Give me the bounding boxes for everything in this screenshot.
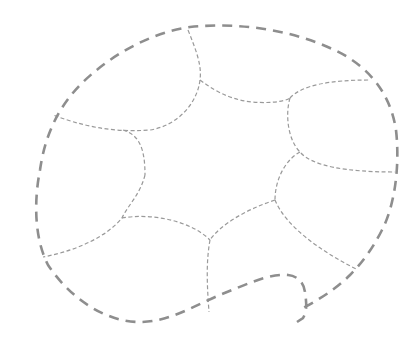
dashed-outline-diagram [0,0,420,351]
